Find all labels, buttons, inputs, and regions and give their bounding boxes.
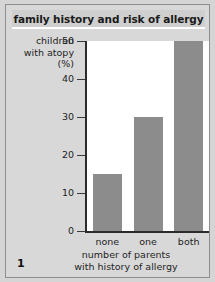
figure-container: family history and risk of allergy child… bbox=[0, 0, 215, 282]
figure-number: 1 bbox=[17, 257, 25, 270]
bar bbox=[93, 174, 122, 231]
y-axis-label-line-2: with atopy bbox=[12, 47, 74, 59]
y-axis-tick: 0 bbox=[77, 231, 86, 232]
x-axis-line bbox=[85, 231, 209, 233]
y-axis-tick-label: 50 bbox=[62, 35, 74, 46]
x-axis-label: number of parents with history of allerg… bbox=[46, 249, 206, 272]
x-axis-label-line-2: with history of allergy bbox=[46, 261, 206, 273]
y-axis-tick-mark bbox=[77, 193, 85, 194]
y-axis-label-line-3: (%) bbox=[12, 58, 74, 70]
x-axis-category-labels: noneoneboth bbox=[87, 236, 209, 249]
y-axis-tick: 50 bbox=[77, 41, 86, 42]
chart-title-band: family history and risk of allergy bbox=[12, 10, 205, 29]
y-axis-tick-mark bbox=[77, 117, 85, 118]
y-axis-tick-label: 20 bbox=[62, 149, 74, 160]
y-axis-tick-label: 10 bbox=[62, 187, 74, 198]
bar-slot bbox=[93, 41, 122, 231]
y-axis-tick: 20 bbox=[77, 155, 86, 156]
y-axis-tick-label: 40 bbox=[62, 73, 74, 84]
y-axis-tick: 10 bbox=[77, 193, 86, 194]
x-axis-category-label: both bbox=[168, 236, 209, 247]
x-axis-label-line-1: number of parents bbox=[46, 249, 206, 261]
bar bbox=[174, 41, 203, 231]
bar-slot bbox=[174, 41, 203, 231]
y-axis-tick-mark bbox=[77, 41, 85, 42]
bar-group bbox=[87, 41, 209, 231]
chart-title: family history and risk of allergy bbox=[14, 13, 204, 25]
figure-panel: family history and risk of allergy child… bbox=[5, 4, 210, 278]
y-axis-tick-mark bbox=[77, 231, 85, 232]
y-axis-tick-mark bbox=[77, 155, 85, 156]
x-axis-category-label: none bbox=[87, 236, 128, 247]
y-axis-tick-mark bbox=[77, 79, 85, 80]
x-axis-category-label: one bbox=[128, 236, 169, 247]
y-axis-tick: 40 bbox=[77, 79, 86, 80]
y-axis-tick-label: 0 bbox=[68, 225, 74, 236]
y-axis-tick: 30 bbox=[77, 117, 86, 118]
y-axis-tick-label: 30 bbox=[62, 111, 74, 122]
bar-slot bbox=[134, 41, 163, 231]
plot-wrapper: 01020304050 bbox=[78, 41, 209, 233]
bar bbox=[134, 117, 163, 231]
